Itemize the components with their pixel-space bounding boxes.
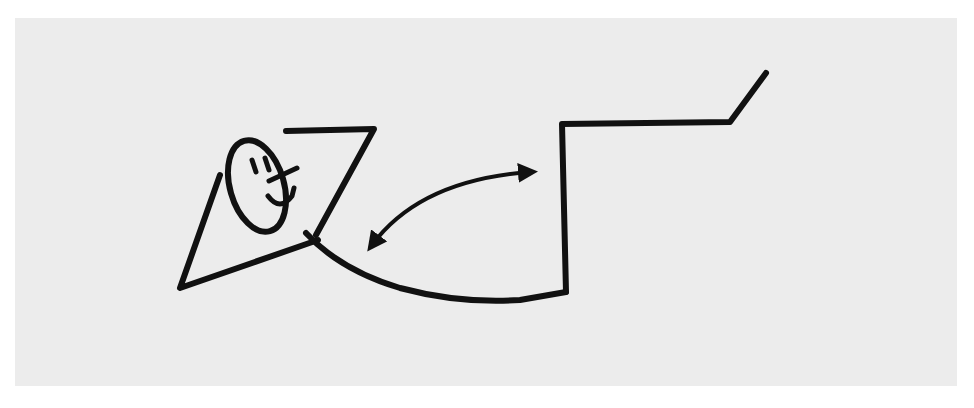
hand-drawn-diagram [0,0,974,408]
smiley-face [218,133,297,238]
stepped-platform [562,73,766,292]
connecting-curve [306,233,566,301]
double-headed-arrow [372,172,530,245]
